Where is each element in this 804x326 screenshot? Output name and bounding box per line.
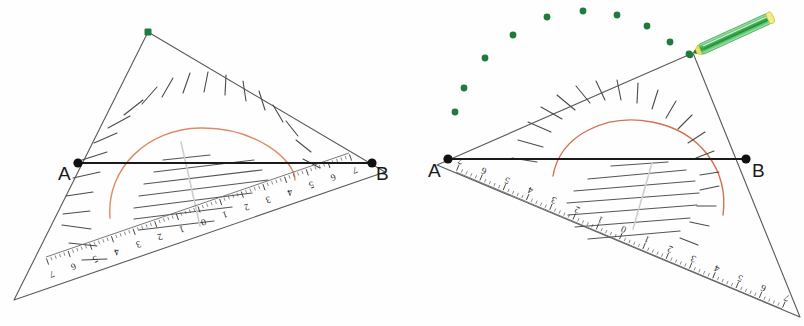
point-a-dot-right (443, 154, 452, 163)
trail-dot (452, 109, 459, 116)
trail-dot (580, 8, 587, 15)
ruler-numeral: 5 (736, 273, 744, 284)
diagram-canvas: 765432101234567 A B (0, 0, 804, 326)
ruler-numeral: 4 (113, 246, 121, 257)
ruler-numeral: 7 (782, 292, 790, 303)
ruler-numerals-right: 765432101234567 (456, 155, 790, 303)
protractor-arc-left (110, 128, 295, 218)
apex-marker-left (145, 29, 152, 36)
geometry-illustration: 765432101234567 A B (0, 0, 804, 326)
ruler-numeral: 6 (759, 283, 767, 294)
ruler-numeral: 1 (596, 214, 604, 225)
ruler-numeral: 6 (69, 261, 77, 272)
ruler-ticks-left (46, 154, 351, 264)
trail-dot (544, 14, 551, 21)
ruler-numeral: 5 (503, 175, 511, 186)
ruler-numeral: 4 (526, 185, 534, 196)
point-a-label-right: A (428, 160, 441, 181)
ruler-numeral: 2 (156, 231, 164, 242)
protractor-center-line-right (633, 163, 652, 229)
trail-dot (644, 23, 651, 30)
green-pencil-icon (691, 11, 776, 58)
ruler-edge-left (46, 153, 349, 257)
trail-dot (614, 12, 621, 19)
point-a-label-left: A (58, 163, 71, 184)
trail-dot (482, 55, 489, 62)
ruler-numeral: 1 (643, 234, 651, 245)
point-b-label-right: B (752, 160, 765, 181)
trail-dot (461, 85, 468, 92)
ruler-numeral: 3 (264, 194, 272, 205)
trail-dot (510, 32, 517, 39)
triangle-outline-right (437, 53, 800, 317)
ruler-numeral: 1 (221, 209, 229, 220)
ruler-numeral: 4 (712, 263, 720, 274)
ruler-numerals-left: 765432101234567 (48, 165, 359, 280)
ruler-numeral: 6 (480, 165, 488, 176)
point-a-dot-left (73, 158, 82, 167)
point-b-dot-right (741, 154, 750, 163)
ruler-numeral: 0 (619, 224, 627, 235)
radial-ticks-lower-left (62, 225, 107, 260)
dot-trail-right (452, 8, 693, 116)
radial-ticks-lower-right (680, 186, 719, 245)
trail-dot (667, 39, 674, 46)
ruler-numeral: 3 (689, 253, 697, 264)
pencil-nib-dot (687, 52, 693, 58)
ruler-numeral: 7 (351, 165, 359, 176)
ruler-numeral: 6 (329, 172, 337, 183)
ruler-numeral: 3 (134, 239, 142, 250)
ruler-numeral: 2 (243, 202, 251, 213)
figure-right: 765432101234567 A B (428, 8, 800, 317)
ruler-numeral: 5 (307, 179, 315, 190)
figure-left: 765432101234567 A B (14, 29, 389, 301)
ruler-numeral: 3 (549, 194, 557, 205)
ruler-numeral: 7 (48, 269, 56, 280)
ruler-numeral: 4 (286, 187, 294, 198)
ruler-numeral: 1 (178, 224, 186, 235)
point-b-label-left: B (376, 163, 389, 184)
radial-ticks-right (512, 80, 719, 175)
ruler-numeral: 7 (456, 155, 464, 166)
ruler-edge-right (456, 172, 782, 309)
protractor-arc-right (553, 120, 724, 215)
radial-ticks-left (63, 72, 320, 214)
ruler-numeral: 2 (666, 243, 674, 254)
